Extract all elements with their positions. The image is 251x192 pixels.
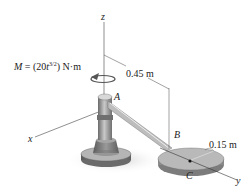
x-axis-label: x [28, 134, 32, 144]
moment-exponent: 3/2 [49, 61, 57, 67]
mechanics-diagram: z x y MM = (20t = (20t3/2) N·m 0.45 m 0.… [0, 0, 251, 192]
arm-length-dimension: 0.45 m [126, 69, 154, 79]
y-axis-label: y [236, 176, 240, 186]
point-a-label: A [114, 92, 120, 102]
point-b-label: B [174, 130, 180, 140]
x-axis [35, 111, 101, 137]
diagram-drawing [0, 0, 251, 192]
z-axis-label: z [101, 12, 105, 22]
point-c-label: C [186, 171, 193, 181]
disk-radius-dimension: 0.15 m [209, 140, 237, 150]
moment-label: MM = (20t = (20t3/2) N·m [14, 61, 81, 72]
moment-arrowhead [91, 73, 99, 80]
